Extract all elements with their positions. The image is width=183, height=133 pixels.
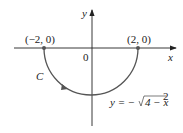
point-2-0 bbox=[136, 46, 140, 50]
equation-label: y = − 4 − x 2 bbox=[109, 90, 169, 108]
x-axis-label: x bbox=[167, 51, 173, 63]
y-axis-label: y bbox=[81, 7, 87, 19]
svg-text:2: 2 bbox=[163, 90, 169, 102]
direction-arrow-icon bbox=[61, 84, 68, 90]
curve-c bbox=[44, 48, 138, 95]
semicircle-diagram: y x 0 (−2, 0) (2, 0) C y = − 4 − x 2 bbox=[0, 0, 183, 133]
point-label-left: (−2, 0) bbox=[25, 33, 55, 46]
curve-label: C bbox=[36, 70, 44, 82]
svg-text:y = −: y = − bbox=[109, 96, 135, 108]
point-label-right: (2, 0) bbox=[127, 33, 151, 46]
point-neg2-0 bbox=[42, 46, 46, 50]
origin-label: 0 bbox=[83, 51, 89, 63]
